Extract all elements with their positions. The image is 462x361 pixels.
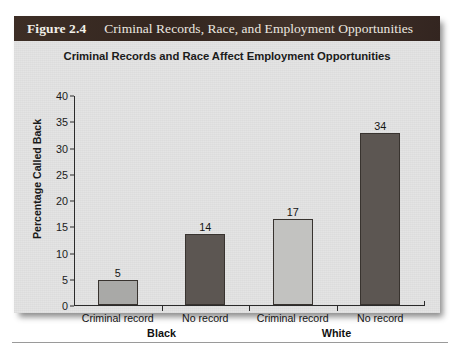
bar: 17 bbox=[273, 219, 313, 305]
figure-caption: Criminal Records, Race, and Employment O… bbox=[104, 21, 413, 37]
figure-number: Figure 2.4 bbox=[27, 21, 86, 37]
y-tick-label: 40 bbox=[56, 90, 68, 102]
bar: 34 bbox=[360, 133, 400, 305]
y-tick-label: 35 bbox=[56, 116, 68, 128]
category-label: Criminal record bbox=[257, 312, 329, 324]
category-tick bbox=[249, 306, 250, 311]
y-tick-label: 20 bbox=[56, 195, 68, 207]
chart-title: Criminal Records and Race Affect Employm… bbox=[14, 50, 440, 62]
y-tick-label: 10 bbox=[56, 248, 68, 260]
y-tick-mark bbox=[70, 253, 74, 254]
page-rule bbox=[12, 342, 448, 343]
y-tick-label: 30 bbox=[56, 143, 68, 155]
group-label: White bbox=[322, 327, 351, 339]
page-background: Figure 2.4 Criminal Records, Race, and E… bbox=[0, 0, 462, 361]
figure-banner: Figure 2.4 Criminal Records, Race, and E… bbox=[14, 16, 440, 41]
figure-panel: Figure 2.4 Criminal Records, Race, and E… bbox=[14, 16, 440, 313]
bar-value-label: 34 bbox=[374, 120, 386, 132]
y-tick-mark bbox=[70, 279, 74, 280]
y-axis-line bbox=[74, 96, 75, 306]
bar-value-label: 5 bbox=[115, 267, 121, 279]
chart-area: Criminal Records and Race Affect Employm… bbox=[14, 41, 440, 313]
y-tick-mark bbox=[70, 227, 74, 228]
category-label: Criminal record bbox=[82, 312, 154, 324]
category-label: No record bbox=[357, 312, 404, 324]
group-label: Black bbox=[147, 327, 176, 339]
y-tick-mark bbox=[70, 306, 74, 307]
x-axis-endcap bbox=[424, 301, 425, 306]
plot-area: 0510152025303540 5141734 Criminal record… bbox=[74, 96, 424, 306]
y-axis-title-label: Percentage Called Back bbox=[31, 118, 43, 238]
bar: 5 bbox=[98, 280, 138, 305]
y-tick-mark bbox=[70, 201, 74, 202]
y-tick-label: 15 bbox=[56, 221, 68, 233]
y-tick-label: 5 bbox=[62, 274, 68, 286]
bar-value-label: 14 bbox=[199, 221, 211, 233]
y-axis-title: Percentage Called Back bbox=[30, 86, 44, 271]
y-tick-label: 0 bbox=[62, 300, 68, 312]
y-tick-mark bbox=[70, 174, 74, 175]
y-tick-mark bbox=[70, 96, 74, 97]
category-tick bbox=[162, 306, 163, 311]
bar: 14 bbox=[185, 234, 225, 305]
category-label: No record bbox=[182, 312, 229, 324]
y-tick-mark bbox=[70, 148, 74, 149]
y-tick-mark bbox=[70, 122, 74, 123]
bar-value-label: 17 bbox=[287, 206, 299, 218]
y-tick-label: 25 bbox=[56, 169, 68, 181]
category-tick bbox=[337, 306, 338, 311]
